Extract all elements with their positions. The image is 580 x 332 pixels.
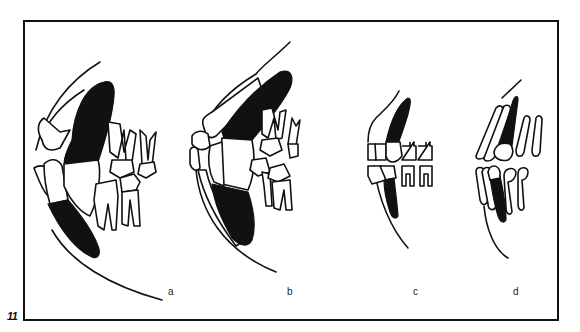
- panel-d-drawing: [476, 80, 542, 258]
- panel-label-a: a: [168, 286, 174, 297]
- panel-label-b: b: [287, 286, 293, 297]
- panel-b-drawing: [190, 42, 300, 272]
- figure-number: 11: [7, 310, 17, 322]
- dental-diagrams: [0, 0, 580, 332]
- panel-c-drawing: [368, 91, 432, 248]
- panel-label-c: c: [413, 286, 418, 297]
- panel-label-d: d: [513, 286, 519, 297]
- panel-a-drawing: [34, 62, 162, 300]
- dental-figure: a b c d 11: [0, 0, 580, 332]
